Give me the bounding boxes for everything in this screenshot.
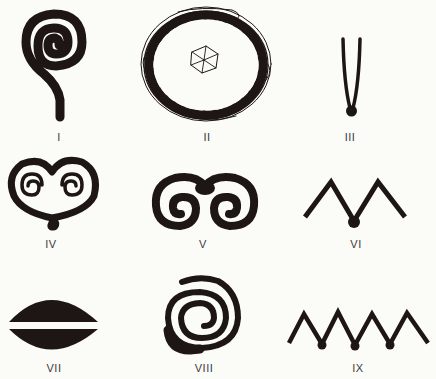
symbol-vii-split-lens-icon <box>9 300 98 350</box>
label-i: I <box>57 131 61 143</box>
symbol-v-ram-horns-icon <box>156 177 254 226</box>
label-iv: IV <box>45 238 56 250</box>
symbol-plate <box>0 0 436 379</box>
label-iii: III <box>345 131 356 143</box>
symbol-iv-heart-spirals-icon <box>11 160 95 229</box>
symbol-i-spiral-icon <box>26 14 82 117</box>
label-ix: IX <box>352 362 363 374</box>
label-vi: VI <box>350 238 361 250</box>
symbol-viii-spiral-icon <box>168 278 238 350</box>
symbol-ix-zigzag-icon <box>289 312 428 351</box>
label-vii: VII <box>47 362 62 374</box>
symbol-ii-ring-icon <box>141 7 271 121</box>
symbol-iii-tongs-icon <box>343 39 360 117</box>
label-ii: II <box>203 131 210 143</box>
symbol-vi-chevron-icon <box>305 182 405 228</box>
label-viii: VIII <box>195 362 214 374</box>
label-v: V <box>199 238 207 250</box>
